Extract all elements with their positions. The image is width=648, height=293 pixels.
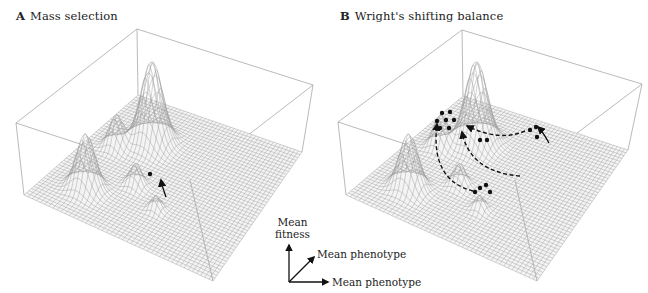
population-point [447,126,451,130]
fitness-axis-label: Mean fitness [275,216,310,240]
population-point [148,172,152,176]
population-point [534,125,538,129]
box-edge [462,30,463,96]
box-edge [338,122,346,195]
population-point [488,190,492,194]
fitness-label-line2: fitness [275,228,310,240]
box-edge [137,29,313,85]
box-edge [338,30,462,122]
fitness-label-line1: Mean [275,216,310,228]
panel-a-landscape [16,29,313,281]
population-point [438,126,442,130]
phenotype-x-label: Mean phenotype [332,276,421,288]
population-point [444,118,448,122]
box-edge [16,29,137,123]
population-point [478,186,482,190]
population-point [452,118,456,122]
population-point [484,183,488,187]
phenotype-y-label: Mean phenotype [317,248,406,260]
box-edge [16,123,24,195]
population-point [478,138,482,142]
box-edge [137,29,138,95]
population-point [435,119,439,123]
population-point [440,111,444,115]
population-point [485,138,489,142]
population-point [473,190,477,194]
box-edge [302,85,313,152]
population-point [448,110,452,114]
population-point [535,135,539,139]
box-edge [628,84,642,150]
phenotype-y-axis-arrow [289,257,314,282]
box-edge [462,30,642,84]
population-point [528,128,532,132]
panel-b-landscape [338,30,642,281]
